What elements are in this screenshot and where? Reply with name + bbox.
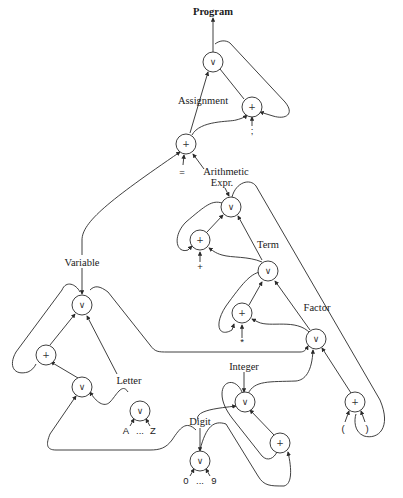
edge-arith-label	[225, 188, 229, 196]
edge-digit-to-inner-or	[48, 396, 196, 450]
label-digit: Digit	[189, 416, 211, 427]
edge-letter-to-var-or	[87, 316, 117, 374]
edge-term-to-arith-or	[238, 216, 262, 260]
node-term-or: ∨	[258, 261, 278, 281]
label-expr: Expr.	[211, 177, 233, 188]
svg-text:∨: ∨	[210, 57, 217, 67]
terminal-letter-a: A	[123, 425, 130, 436]
node-term-and: +	[232, 303, 252, 323]
svg-text:∨: ∨	[242, 397, 249, 407]
node-variable-and: +	[36, 345, 56, 365]
edge-integer-to-factor	[248, 350, 313, 394]
node-integer-and: +	[270, 433, 290, 453]
svg-text:∨: ∨	[313, 334, 320, 344]
edge-letter-to-inner-or	[90, 389, 128, 405]
svg-text:+: +	[351, 397, 359, 407]
label-arithmetic: Arithmetic	[203, 166, 249, 177]
node-assignment-and: +	[176, 134, 196, 154]
label-variable: Variable	[65, 257, 100, 268]
node-program-or: ∨	[203, 52, 223, 72]
terminal-digit-ellipsis: ...	[196, 475, 204, 486]
edge-variable-to-factor	[90, 287, 308, 352]
svg-text:+: +	[276, 438, 284, 448]
svg-text:∨: ∨	[265, 266, 272, 276]
edge-inner-or-to-plus	[51, 362, 78, 378]
node-statement-and: +	[242, 97, 262, 117]
svg-text:+: +	[196, 235, 204, 245]
terminal-plus: +	[197, 261, 203, 272]
edge-term-to-arith-plus	[209, 248, 262, 262]
edge-var-plus-to-or	[50, 314, 75, 345]
edge-term-loop	[219, 272, 260, 332]
node-var-inner-or: ∨	[72, 377, 92, 397]
label-term: Term	[257, 239, 279, 250]
node-factor-or: ∨	[306, 329, 326, 349]
edge-letter-a	[130, 419, 134, 426]
node-paren-and: +	[345, 392, 365, 412]
terminal-lparen: (	[341, 423, 345, 434]
terminal-digit-9: 9	[211, 475, 216, 486]
terminal-digit-0: 0	[183, 475, 188, 486]
svg-text:+: +	[248, 102, 256, 112]
terminal-semicolon: ;	[251, 125, 254, 136]
node-arith-or: ∨	[221, 197, 241, 217]
edge-paren-to-factor	[322, 348, 351, 393]
edge-factor-to-term-plus	[252, 319, 310, 333]
edge-variable-to-assign	[82, 152, 180, 255]
svg-text:+: +	[238, 308, 246, 318]
svg-text:∨: ∨	[228, 202, 235, 212]
edge-int-plus-to-or	[250, 410, 274, 435]
label-factor: Factor	[304, 302, 331, 313]
terminal-letter-ellipsis: ...	[136, 425, 144, 436]
edge-lparen	[345, 411, 349, 422]
svg-text:+: +	[182, 139, 190, 149]
edge-digit-0	[190, 469, 194, 476]
edge-arith-plus-to-or	[207, 215, 223, 232]
node-variable-or: ∨	[72, 295, 92, 315]
svg-text:∨: ∨	[79, 382, 86, 392]
edge-rparen	[361, 411, 365, 422]
terminal-rparen: )	[365, 423, 368, 434]
label-assignment: Assignment	[178, 95, 228, 106]
terminal-equals: =	[179, 166, 185, 177]
terminal-letter-z: Z	[150, 425, 156, 436]
label-integer: Integer	[229, 361, 259, 372]
label-letter: Letter	[116, 375, 142, 386]
edge-equals	[183, 155, 184, 165]
label-program: Program	[193, 6, 233, 17]
node-arith-and: +	[190, 230, 210, 250]
svg-text:∨: ∨	[137, 406, 144, 416]
svg-text:∨: ∨	[79, 300, 86, 310]
edge-term-plus-to-or	[249, 282, 262, 305]
terminal-times: *	[240, 336, 244, 347]
node-digit-or: ∨	[190, 451, 210, 471]
edge-digit-9	[206, 469, 210, 476]
edge-assignment-to-stmt	[192, 115, 247, 135]
node-letter-or: ∨	[130, 401, 150, 421]
svg-text:∨: ∨	[197, 456, 204, 466]
svg-text:+: +	[42, 350, 50, 360]
node-integer-or: ∨	[235, 392, 255, 412]
